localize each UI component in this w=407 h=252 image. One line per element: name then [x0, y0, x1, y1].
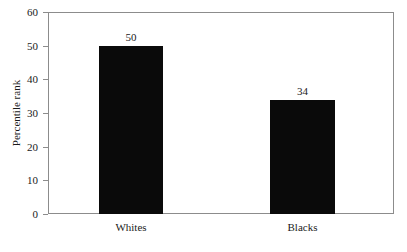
- y-axis-tick: [43, 79, 48, 80]
- y-axis-tick: [43, 214, 48, 215]
- bar-chart: 0102030405060 Percentile rank 50Whites34…: [0, 0, 407, 252]
- y-axis-tick: [43, 46, 48, 47]
- y-axis-tick: [43, 113, 48, 114]
- bar-value-label: 34: [270, 86, 335, 97]
- bar: [99, 46, 163, 214]
- x-axis-category-label: Blacks: [250, 222, 355, 233]
- bar-value-label: 50: [99, 32, 163, 43]
- y-axis-title-container: Percentile rank: [10, 12, 24, 214]
- y-axis-title: Percentile rank: [10, 12, 22, 214]
- y-axis-tick: [43, 180, 48, 181]
- x-axis-category-label: Whites: [79, 222, 183, 233]
- y-axis-tick: [43, 147, 48, 148]
- y-axis-tick: [43, 12, 48, 13]
- bar: [270, 100, 335, 214]
